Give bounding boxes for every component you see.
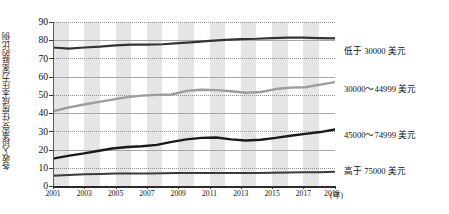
chart-container: 各收入段承受住房成本压力家庭的比例 90 80 70 60 50 40 30 2… bbox=[0, 0, 449, 214]
x-tick-label: 2011 bbox=[193, 189, 227, 198]
x-tick-label: 2015 bbox=[255, 189, 289, 198]
series-label-high-income: 高于 75000 美元 bbox=[344, 166, 406, 176]
series-label-30000-44999: 30000～44999 美元 bbox=[344, 84, 416, 94]
series-label-low-income: 低于 30000 美元 bbox=[344, 46, 406, 56]
x-axis-line bbox=[53, 186, 336, 188]
x-tick-label: 2007 bbox=[130, 189, 164, 198]
y-tick-label: 70 bbox=[24, 54, 48, 63]
series-line-high-income bbox=[53, 172, 335, 176]
y-tick-label: 20 bbox=[24, 145, 48, 154]
y-tick-label: 50 bbox=[24, 90, 48, 99]
x-tick-label: 2001 bbox=[36, 189, 70, 198]
y-tick-label: 80 bbox=[24, 35, 48, 44]
y-axis-line bbox=[53, 22, 54, 186]
x-tick-label: 2003 bbox=[67, 189, 101, 198]
series-lines bbox=[53, 22, 335, 186]
x-tick-label: 2005 bbox=[99, 189, 133, 198]
series-line-low-income bbox=[53, 38, 335, 49]
y-tick-label: 60 bbox=[24, 72, 48, 81]
y-axis-title: 各收入段承受住房成本压力家庭的比例 bbox=[0, 8, 16, 194]
y-axis-tick-labels: 90 80 70 60 50 40 30 20 10 0 bbox=[20, 0, 48, 214]
y-tick-label: 30 bbox=[24, 127, 48, 136]
x-tick-label: 2013 bbox=[224, 189, 258, 198]
plot-area bbox=[53, 22, 335, 186]
x-axis-unit-label: (年) bbox=[330, 189, 343, 200]
y-tick-label: 90 bbox=[24, 17, 48, 26]
series-label-45000-74999: 45000～74999 美元 bbox=[344, 130, 416, 140]
series-line-45000-74999 bbox=[53, 130, 335, 159]
x-tick-label: 2009 bbox=[161, 189, 195, 198]
y-tick-label: 40 bbox=[24, 108, 48, 117]
y-tick-label: 10 bbox=[24, 163, 48, 172]
series-line-30000-44999 bbox=[53, 82, 335, 111]
